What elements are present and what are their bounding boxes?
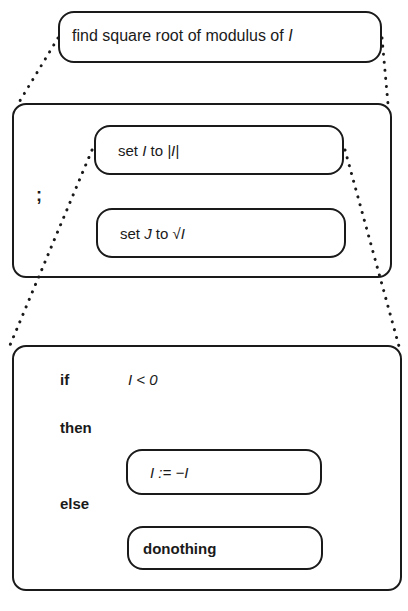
step1-text: set I to |I| <box>118 142 179 159</box>
else-keyword: else <box>60 495 89 512</box>
if-condition: I < 0 <box>128 371 158 388</box>
else-statement-box: donothing <box>127 526 323 570</box>
else-statement: donothing <box>143 540 216 557</box>
top-goal-text: find square root of modulus of I <box>72 27 293 45</box>
if-keyword: if <box>60 371 69 388</box>
sequence-box: ; set I to |I| set J to √I <box>12 103 392 278</box>
sequence-separator: ; <box>36 185 42 206</box>
step-set-i-box: set I to |I| <box>94 125 344 175</box>
then-keyword: then <box>60 419 92 436</box>
top-goal-box: find square root of modulus of I <box>58 11 382 63</box>
conditional-box: if I < 0 then I := −I else donothing <box>12 345 402 591</box>
step2-text: set J to √I <box>120 225 185 242</box>
step-set-j-box: set J to √I <box>96 208 346 258</box>
then-statement-box: I := −I <box>126 449 322 495</box>
then-statement: I := −I <box>150 464 188 481</box>
